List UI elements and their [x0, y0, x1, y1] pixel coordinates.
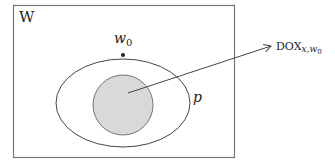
arrow-target-label: DOXx,w0 [276, 40, 322, 56]
point-w0 [121, 53, 125, 57]
frame-label: W [19, 8, 35, 26]
diagram-canvas: W w0 p DOXx,w0 [0, 0, 335, 167]
set-label: p [193, 89, 202, 105]
inner-set-circle [93, 75, 153, 135]
